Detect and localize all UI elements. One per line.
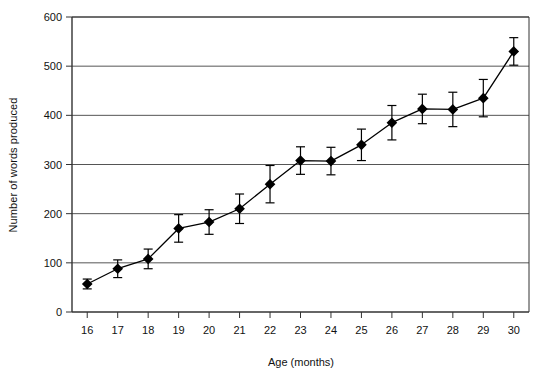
data-point-marker [388,119,396,127]
y-axis-title: Number of words produced [7,97,19,232]
data-point-marker [449,105,457,113]
data-point-marker [510,47,518,55]
x-axis-tick-labels-group: 161718192021222324252627282930 [81,324,520,336]
y-axis-tick-label: 400 [44,109,62,121]
x-axis-tick-label: 16 [81,324,93,336]
data-point-marker [418,105,426,113]
y-axis-tick-label: 200 [44,208,62,220]
data-point-marker [114,265,122,273]
y-axis-tick-labels-group: 0100200300400500600 [44,11,62,318]
x-axis-tick-label: 24 [325,324,337,336]
x-axis-tick-label: 20 [203,324,215,336]
y-axis-tick-label: 100 [44,257,62,269]
x-axis-tick-label: 27 [416,324,428,336]
y-axis-tick-label: 500 [44,60,62,72]
x-axis-tick-label: 23 [294,324,306,336]
y-axis-title-wrapper: Number of words produced [0,0,26,330]
x-axis-tick-label: 30 [508,324,520,336]
x-axis-tick-label: 28 [447,324,459,336]
data-point-marker [327,157,335,165]
y-axis-tick-label: 600 [44,11,62,23]
x-axis-tick-label: 22 [264,324,276,336]
x-axis-tick-label: 19 [173,324,185,336]
x-axis-tick-label: 18 [142,324,154,336]
x-axis-tick-label: 25 [355,324,367,336]
y-axis-tick-label: 0 [56,306,62,318]
x-axis-title: Age (months) [72,356,530,368]
x-axis-tick-label: 17 [112,324,124,336]
line-chart-plot: 0100200300400500600 16171819202122232425… [0,0,542,382]
chart-figure: Number of words produced 010020030040050… [0,0,542,382]
gridlines-group [72,17,529,263]
data-point-marker [205,218,213,226]
data-point-marker [83,280,91,288]
y-axis-tick-label: 300 [44,159,62,171]
x-axis-tick-label: 21 [233,324,245,336]
x-axis-tick-label: 29 [477,324,489,336]
data-point-marker [479,94,487,102]
y-axis-ticks-group [66,17,72,312]
x-axis-ticks-group [87,312,514,318]
x-axis-tick-label: 26 [386,324,398,336]
